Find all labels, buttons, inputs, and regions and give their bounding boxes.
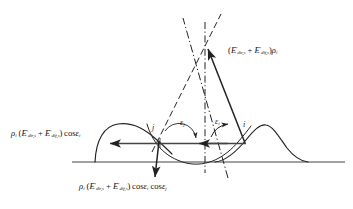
label-left-horizontal-flux: ρi (E′dir,s + E′dif,s) cosεi bbox=[11, 129, 80, 138]
down-flux-arrow bbox=[155, 141, 159, 177]
figure-canvas: (E′dir,s + E′dif,s)ρi ρi (E′dir,s + E′di… bbox=[0, 0, 353, 209]
slant-axis-dashed bbox=[152, 14, 221, 152]
point-label-j: j bbox=[152, 124, 154, 132]
angle-label-epsilon-i: εi bbox=[215, 118, 219, 126]
diagram-vector-layer bbox=[0, 0, 353, 209]
label-bottom-flux: ρi (E′dir,s + E′dif,s) cosεi cosεj bbox=[79, 182, 167, 191]
point-label-i: i bbox=[243, 121, 245, 129]
reflected-ray-arrow bbox=[208, 49, 245, 143]
angle-arc-epsilon-i bbox=[211, 124, 228, 137]
label-reflected-flux: (E′dir,s + E′dif,s)ρi bbox=[228, 46, 277, 55]
angle-label-epsilon-j: εj bbox=[180, 119, 184, 127]
